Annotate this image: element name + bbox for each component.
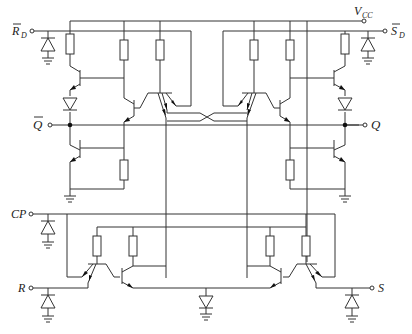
r-label: R (17, 281, 26, 295)
terminal-r: R (17, 281, 33, 295)
wiring (33, 21, 383, 296)
rd-label: R (11, 24, 20, 38)
clamp-diode-sd (361, 31, 375, 58)
diode-bottom-middle (199, 296, 213, 314)
clamp-diode-s (345, 288, 359, 316)
grounds (42, 58, 374, 322)
terminal-sd-bar: S D (383, 24, 405, 40)
qbar-label: Q (33, 117, 43, 132)
rd-sub: D (20, 31, 27, 40)
diodes (41, 31, 375, 316)
s-label: S (378, 281, 384, 295)
clamp-diode-rd (41, 31, 55, 58)
diode-right-output (338, 98, 352, 110)
terminal-q: Q (363, 117, 381, 132)
terminal-q-bar: Q (33, 117, 52, 132)
sd-sub: D (398, 31, 405, 40)
terminal-cp: CP (11, 207, 33, 221)
clamp-diode-r (41, 288, 55, 316)
terminal-vcc: V CC (354, 4, 373, 23)
q-label: Q (371, 117, 381, 132)
sd-label: S (391, 24, 397, 38)
terminal-s: S (370, 281, 384, 295)
flip-flop-circuit-diagram: R D V CC S D Q Q CP R S (0, 0, 412, 334)
clamp-diode-cp (41, 214, 55, 242)
terminal-rd-bar: R D (11, 24, 34, 40)
emitter-arrows (70, 85, 345, 288)
cp-label: CP (11, 207, 27, 221)
diode-left-output (63, 98, 77, 110)
